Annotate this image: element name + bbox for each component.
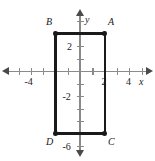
y-tick-4	[77, 21, 84, 22]
vertex-dot-a	[102, 31, 107, 36]
x-tick-4	[129, 68, 130, 75]
y-tick--3	[77, 109, 84, 110]
x-axis-left-arrow-icon	[2, 67, 9, 75]
y-axis-label: y	[85, 15, 89, 25]
y-tick-2	[77, 46, 84, 47]
x-tick-5	[142, 68, 143, 75]
rectangle-right-side	[104, 34, 106, 134]
y-tick--1	[77, 84, 84, 85]
vertex-label-c: C	[108, 137, 115, 147]
x-tick-3	[117, 68, 118, 75]
y-tick--6	[77, 146, 84, 147]
x-tick-label-4: 4	[126, 77, 131, 87]
x-tick--5	[19, 68, 20, 75]
x-tick--4	[31, 68, 32, 75]
y-tick--2	[77, 96, 84, 97]
coordinate-plane-figure: -4 2 4 2 -2 -6 x y B A D C	[0, 0, 155, 161]
vertex-label-d: D	[46, 137, 53, 147]
y-tick-label-2: 2	[67, 42, 72, 52]
x-axis-line	[8, 71, 147, 72]
rectangle-top-side	[55, 32, 104, 34]
x-tick--3	[43, 68, 44, 75]
y-tick-label--2: -2	[63, 92, 71, 102]
y-tick--4	[77, 121, 84, 122]
vertex-dot-c	[102, 131, 107, 136]
y-axis-down-arrow-icon	[76, 150, 84, 157]
y-tick-1	[77, 59, 84, 60]
vertex-label-b: B	[46, 17, 52, 27]
vertex-dot-d	[53, 131, 58, 136]
vertex-label-a: A	[108, 17, 114, 27]
rectangle-bottom-side	[55, 132, 104, 134]
y-tick-label--6: -6	[63, 142, 71, 152]
rectangle-left-side	[54, 34, 56, 134]
x-tick-label--4: -4	[25, 77, 33, 87]
y-axis-up-arrow-icon	[76, 9, 84, 16]
x-tick--1	[68, 68, 69, 75]
x-axis-right-arrow-icon	[146, 67, 153, 75]
x-tick-1	[92, 68, 93, 75]
vertex-dot-b	[53, 31, 58, 36]
x-axis-label: x	[139, 77, 143, 87]
